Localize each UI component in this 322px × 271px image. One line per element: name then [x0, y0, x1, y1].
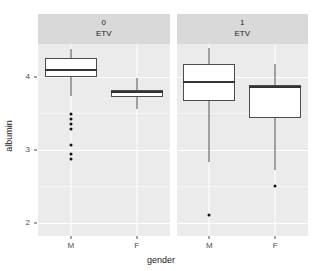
outlier-point [69, 153, 72, 156]
x-tick-mark [275, 236, 276, 239]
facet-strip-variable: ETV [96, 29, 112, 40]
facet-strip-label: 0ETV [38, 14, 170, 44]
whisker-upper [275, 64, 276, 85]
outlier-point [274, 185, 277, 188]
median-line [111, 91, 163, 93]
gridline-major-horizontal [177, 223, 309, 224]
whisker-lower [136, 97, 137, 109]
y-tick-label: 4 [16, 73, 30, 81]
gridline-major-horizontal [177, 150, 309, 151]
facet-strip-value: 0 [102, 18, 106, 29]
median-line [249, 86, 301, 88]
median-line [183, 81, 235, 83]
facet-panel: 0ETV [38, 14, 170, 236]
facet-strip-label: 1ETV [177, 14, 309, 44]
whisker-lower [209, 101, 210, 162]
x-tick-label: M [206, 242, 213, 250]
gridline-major-horizontal [38, 223, 170, 224]
outlier-point [69, 118, 72, 121]
boxplot-figure: albumin 432 0ETV1ETV MFMF gender [0, 0, 322, 271]
box-iqr [45, 58, 97, 77]
whisker-upper [209, 48, 210, 64]
outlier-point [69, 144, 72, 147]
outlier-point [69, 158, 72, 161]
median-line [45, 69, 97, 71]
x-tick-mark [136, 236, 137, 239]
outlier-point [69, 123, 72, 126]
y-tick-label: 3 [16, 146, 30, 154]
facet-panel: 1ETV [177, 14, 309, 236]
whisker-lower [70, 77, 71, 96]
gridline-minor-horizontal [177, 186, 309, 187]
plot-panel [177, 44, 309, 236]
gridline-major-vertical [136, 44, 137, 236]
facet-strip-variable: ETV [234, 29, 250, 40]
box-iqr [249, 85, 301, 118]
gridline-major-horizontal [38, 150, 170, 151]
facet-strip-value: 1 [240, 18, 244, 29]
y-tick-label: 2 [16, 219, 30, 227]
x-tick-mark [70, 236, 71, 239]
y-tick-mark [34, 222, 37, 223]
whisker-upper [70, 49, 71, 58]
gridline-minor-horizontal [38, 113, 170, 114]
gridline-major-horizontal [38, 77, 170, 78]
x-tick-mark [209, 236, 210, 239]
plot-panel [38, 44, 170, 236]
outlier-point [69, 128, 72, 131]
whisker-lower [275, 118, 276, 171]
whisker-upper [136, 78, 137, 90]
outlier-point [208, 213, 211, 216]
y-tick-mark [34, 149, 37, 150]
y-axis-title-label: albumin [4, 120, 14, 152]
x-tick-label: F [273, 242, 278, 250]
y-tick-mark [34, 76, 37, 77]
x-axis-title: gender [0, 255, 322, 265]
x-tick-label: F [134, 242, 139, 250]
y-axis-title: albumin [2, 0, 16, 271]
x-tick-label: M [68, 242, 75, 250]
gridline-minor-horizontal [38, 186, 170, 187]
outlier-point [69, 113, 72, 116]
